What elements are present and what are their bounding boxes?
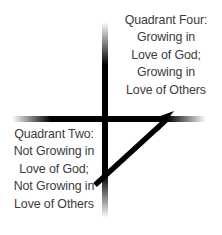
quadrant-two-label: Quadrant Two: Not Growing in Love of God… [2, 126, 106, 213]
quadrant-two-line-2: Not Growing in [2, 143, 106, 160]
quadrant-four-line-1: Quadrant Four: [112, 12, 220, 29]
quadrant-two-line-5: Love of Others [2, 196, 106, 213]
quadrant-four-line-3: Love of God; [112, 47, 220, 64]
quadrant-two-line-1: Quadrant Two: [2, 126, 106, 143]
quadrant-diagram: Quadrant Four: Growing in Love of God; G… [0, 0, 222, 235]
quadrant-four-line-5: Love of Others [112, 82, 220, 99]
quadrant-two-line-3: Love of God; [2, 161, 106, 178]
quadrant-four-line-2: Growing in [112, 29, 220, 46]
horizontal-axis [12, 116, 206, 122]
quadrant-four-label: Quadrant Four: Growing in Love of God; G… [112, 12, 220, 99]
quadrant-two-line-4: Not Growing in [2, 178, 106, 195]
quadrant-four-line-4: Growing in [112, 64, 220, 81]
